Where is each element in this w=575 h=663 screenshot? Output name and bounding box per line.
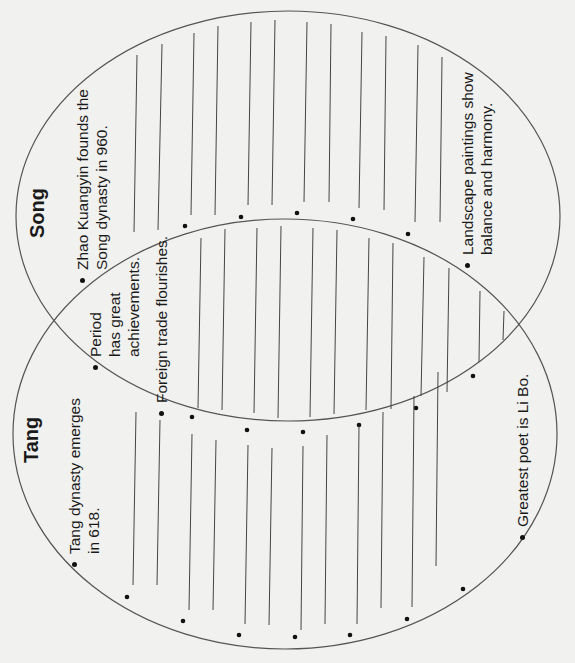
intersection-bullet-1: Period has great achievements. — [86, 257, 143, 370]
tang-writing-lines — [133, 372, 438, 630]
song-title: Song — [28, 188, 47, 238]
song-blank-bullets — [183, 211, 411, 237]
intersection-blank-bullets — [190, 374, 476, 435]
intersection-bullet-1-line-2: has great — [105, 257, 124, 370]
intersection-bullet-1-line-1: Period — [86, 257, 105, 370]
tang-bullet-1-line-1: Tang dynasty emerges — [65, 398, 84, 567]
intersection-bullet-1-line-3: achievements. — [124, 257, 143, 370]
song-writing-lines — [134, 20, 442, 232]
tang-bullet-1-line-2: in 618. — [84, 398, 103, 567]
tang-bullet-1: Tang dynasty emerges in 618. — [65, 398, 103, 567]
tang-title: Tang — [22, 417, 41, 463]
song-bullet-2: Landscape paintings show balance and har… — [458, 72, 496, 268]
song-bullet-1-line-2: Song dynasty in 960. — [92, 89, 111, 283]
song-bullet-1-line-1: Zhao Kuangyin founds the — [73, 89, 92, 283]
venn-diagram: Song Zhao Kuangyin founds the Song dynas… — [0, 0, 575, 663]
song-bullet-2-line-1: Landscape paintings show — [458, 72, 477, 268]
song-bullet-2-line-2: balance and harmony. — [477, 72, 496, 268]
intersection-bullet-2-line-1: Foreign trade flourishes. — [152, 236, 171, 416]
tang-bullet-2-line-1: Greatest poet is Li Bo. — [513, 374, 532, 540]
song-bullet-1: Zhao Kuangyin founds the Song dynasty in… — [73, 89, 111, 283]
tang-bullet-2: Greatest poet is Li Bo. — [513, 374, 532, 540]
intersection-bullet-2: Foreign trade flourishes. — [152, 236, 171, 416]
